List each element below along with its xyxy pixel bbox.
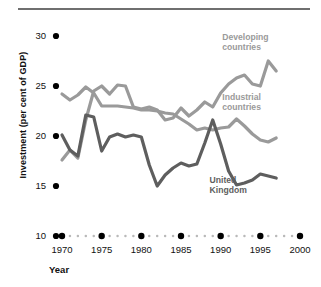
x-axis-minor-dot <box>251 235 254 238</box>
x-axis-minor-dot <box>116 235 119 238</box>
x-tick-label: 1990 <box>210 244 231 255</box>
x-axis-minor-dot <box>85 235 88 238</box>
y-tick-label: 25 <box>35 80 46 91</box>
x-axis-minor-dot <box>124 235 127 238</box>
x-axis-minor-dot <box>283 235 286 238</box>
annotation-label: countries <box>222 42 261 52</box>
x-axis-minor-dot <box>164 235 167 238</box>
annotation-label: countries <box>222 102 261 112</box>
x-axis-tick-labels: 1970197519801985199019952000 <box>51 244 310 255</box>
x-tick-label: 2000 <box>289 244 310 255</box>
y-tick-marker <box>53 83 59 89</box>
x-axis-minor-dot <box>291 235 294 238</box>
x-axis-minor-dot <box>69 235 72 238</box>
y-tick-label: 20 <box>35 130 46 141</box>
x-axis-major-dot <box>217 233 223 239</box>
x-axis-minor-dot <box>275 235 278 238</box>
y-tick-marker <box>53 233 59 239</box>
y-axis-ticks: 3025201510 <box>35 30 59 241</box>
x-axis-minor-dot <box>156 235 159 238</box>
x-axis-minor-dot <box>204 235 207 238</box>
annotation-label: Industrial <box>222 92 261 102</box>
x-axis-minor-dot <box>92 235 95 238</box>
x-axis-minor-dot <box>108 235 111 238</box>
x-axis-major-dot <box>59 233 65 239</box>
x-axis-major-dot <box>138 233 144 239</box>
x-axis-minor-dot <box>148 235 151 238</box>
chart-figure: Investment (per cent of GDP) Year 302520… <box>0 0 321 287</box>
x-axis-major-dot <box>297 233 303 239</box>
y-tick-marker <box>53 33 59 39</box>
annotation-label: Kingdom <box>210 185 248 195</box>
y-tick-label: 15 <box>35 180 46 191</box>
x-axis-major-dot <box>257 233 263 239</box>
x-axis-minor-dot <box>188 235 191 238</box>
x-axis-minor-dot <box>172 235 175 238</box>
x-tick-label: 1985 <box>170 244 191 255</box>
x-axis-major-dot <box>98 233 104 239</box>
x-axis-minor-dot <box>227 235 230 238</box>
x-axis-minor-dot <box>132 235 135 238</box>
line-chart-plot: 3025201510 1970197519801985199019952000 … <box>0 0 321 287</box>
y-tick-marker <box>53 133 59 139</box>
x-axis-minor-dot <box>196 235 199 238</box>
x-axis-minor-dot <box>77 235 80 238</box>
x-axis-minor-dot <box>267 235 270 238</box>
y-tick-label: 30 <box>35 30 46 41</box>
data-series-group <box>62 61 276 186</box>
x-axis-minor-dot <box>211 235 214 238</box>
annotation-label: Developing <box>222 32 268 42</box>
x-tick-label: 1980 <box>131 244 152 255</box>
y-tick-marker <box>53 183 59 189</box>
annotation-label: United <box>210 175 237 185</box>
x-axis-major-dot <box>178 233 184 239</box>
x-axis-dotted-line <box>59 233 303 239</box>
y-tick-label: 10 <box>35 230 46 241</box>
x-axis-minor-dot <box>243 235 246 238</box>
x-tick-label: 1995 <box>250 244 271 255</box>
x-tick-label: 1975 <box>91 244 112 255</box>
x-tick-label: 1970 <box>51 244 72 255</box>
series-annotations: DevelopingcountriesIndustrialcountriesUn… <box>210 32 269 195</box>
x-axis-minor-dot <box>235 235 238 238</box>
